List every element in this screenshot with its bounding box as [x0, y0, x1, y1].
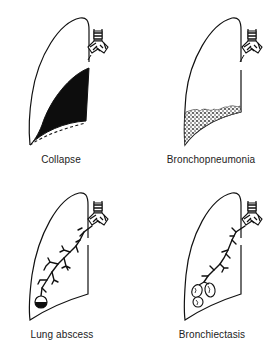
collapsed-lobe: [30, 68, 89, 145]
consolidation-stipple: [184, 106, 241, 145]
lung-pathology-figure: Collapse Bronchopneumonia Lung abscess B…: [0, 0, 279, 349]
bronchial-tree: [38, 226, 92, 296]
label-lung-abscess: Lung abscess: [2, 329, 122, 340]
panel-lung-abscess: [29, 193, 108, 320]
diagram-canvas: [0, 0, 279, 349]
bronchus-icon: [88, 29, 108, 53]
panel-bronchopneumonia: [184, 18, 262, 145]
panel-bronchiectasis: [184, 193, 262, 320]
dilated-bronchi-sacs: [190, 282, 216, 307]
bronchus-icon: [242, 29, 262, 53]
bronchus-icon: [88, 201, 108, 225]
bronchus-icon: [242, 201, 262, 225]
label-bronchiectasis: Bronchiectasis: [152, 329, 272, 340]
bronchial-tree: [202, 226, 245, 282]
label-bronchopneumonia: Bronchopneumonia: [151, 154, 271, 165]
abscess-cavity: [35, 296, 47, 308]
label-collapse: Collapse: [1, 154, 121, 165]
panel-collapse: [29, 18, 108, 145]
